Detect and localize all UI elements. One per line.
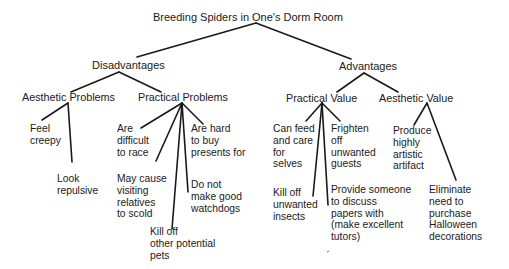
leaf-frighten-off-unwanted-guests: Frighten off unwanted guests <box>331 123 376 170</box>
node-aesthetic-problems: Aesthetic Problems <box>22 91 115 103</box>
leaf-line: Provide someone <box>331 184 411 196</box>
leaf-line: Are hard <box>191 123 245 135</box>
leaf-line: (make excellent <box>331 219 411 231</box>
leaf-line: guests <box>331 158 376 170</box>
leaf-line: insects <box>273 211 318 223</box>
leaf-line: Feel <box>30 123 61 135</box>
leaf-line: for <box>273 147 315 159</box>
leaf-line: repulsive <box>57 185 98 197</box>
leaf-feel-creepy: Feel creepy <box>30 123 61 147</box>
leaf-line: watchdogs <box>191 203 242 215</box>
leaf-can-feed-and-care-for-selves: Can feed and care for selves <box>273 123 315 170</box>
leaf-are-difficult-to-race: Are difficult to race <box>117 123 149 158</box>
leaf-do-not-make-good-watchdogs: Do not make good watchdogs <box>191 179 242 214</box>
leaf-line: unwanted <box>273 199 318 211</box>
leaf-line: pets <box>150 250 215 262</box>
leaf-line: Are <box>117 123 149 135</box>
leaf-line: to buy <box>191 135 245 147</box>
leaf-line: to discuss <box>331 196 411 208</box>
root-node: Breeding Spiders in One's Dorm Room <box>153 11 343 23</box>
leaf-line: Halloween <box>429 219 482 231</box>
leaf-line: unwanted <box>331 147 376 159</box>
leaf-line: decorations <box>429 231 482 243</box>
leaf-line: presents for <box>191 147 245 159</box>
leaf-line: Look <box>57 173 98 185</box>
leaf-line: highly <box>393 137 431 149</box>
node-aesthetic-value: Aesthetic Value <box>379 92 453 104</box>
leaf-line: papers with <box>331 208 411 220</box>
leaf-line: make good <box>191 191 242 203</box>
node-practical-value: Practical Value <box>286 92 357 104</box>
node-advantages: Advantages <box>339 60 397 72</box>
leaf-are-hard-to-buy-presents-for: Are hard to buy presents for <box>191 123 245 158</box>
leaf-eliminate-need-to-purchase-halloween-decorations: Eliminate need to purchase Halloween dec… <box>429 184 482 243</box>
leaf-line: selves <box>273 158 315 170</box>
leaf-provide-someone-to-discuss-papers-with: Provide someone to discuss papers with (… <box>331 184 411 243</box>
leaf-line: Do not <box>191 179 242 191</box>
leaf-line: artifact <box>393 160 431 172</box>
leaf-line: difficult <box>117 135 149 147</box>
leaf-line: Produce <box>393 125 431 137</box>
leaf-line: purchase <box>429 208 482 220</box>
leaf-line: off <box>331 135 376 147</box>
leaf-kill-off-other-potential-pets: Kill off other potential pets <box>150 226 215 261</box>
node-disadvantages: Disadvantages <box>92 59 165 71</box>
leaf-line: relatives <box>117 197 167 209</box>
leaf-line: visiting <box>117 185 167 197</box>
leaf-line: tutors) <box>331 231 411 243</box>
leaf-kill-off-unwanted-insects: Kill off unwanted insects <box>273 187 318 222</box>
leaf-line: need to <box>429 196 482 208</box>
leaf-line: Frighten <box>331 123 376 135</box>
node-practical-problems: Practical Problems <box>138 91 228 103</box>
leaf-line: to scold <box>117 208 167 220</box>
leaf-line: artistic <box>393 149 431 161</box>
leaf-line: to race <box>117 147 149 159</box>
leaf-line: and care <box>273 135 315 147</box>
leaf-line: Kill off <box>273 187 318 199</box>
leaf-line: Eliminate <box>429 184 482 196</box>
leaf-line: other potential <box>150 238 215 250</box>
leaf-produce-highly-artistic-artifact: Produce highly artistic artifact <box>393 125 431 172</box>
leaf-line: creepy <box>30 135 61 147</box>
leaf-may-cause-visiting-relatives-to-scold: May cause visiting relatives to scold <box>117 173 167 220</box>
leaf-line: May cause <box>117 173 167 185</box>
leaf-line: Can feed <box>273 123 315 135</box>
leaf-look-repulsive: Look repulsive <box>57 173 98 197</box>
leaf-line: Kill off <box>150 226 215 238</box>
